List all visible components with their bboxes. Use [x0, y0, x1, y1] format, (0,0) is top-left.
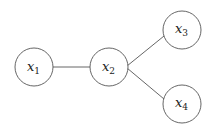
edge-x2-x3: [127, 36, 164, 66]
node-x4: x4: [163, 85, 201, 123]
edge-x2-x4: [127, 68, 164, 99]
graph-diagram: x1 x2 x3 x4: [0, 0, 213, 131]
node-x1: x1: [15, 48, 53, 86]
node-x3: x3: [163, 11, 201, 49]
node-x2: x2: [90, 48, 128, 86]
